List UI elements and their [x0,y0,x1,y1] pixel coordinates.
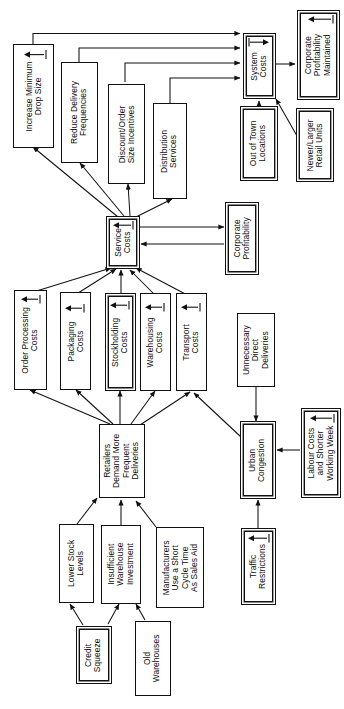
node-traffic-restrictions[interactable]: Traffic Restrictions [241,528,276,605]
node-label: Newer/Larger Retail Units [306,119,325,171]
tick-arrow-icon [22,49,48,61]
node-stockholding-costs[interactable]: Stockholding Costs [105,293,136,391]
node-packaging-costs[interactable]: Packaging Costs [60,292,91,390]
node-label: Distribution Services [161,129,180,172]
node-order-processing-costs[interactable]: Order Processing Costs [14,290,47,390]
node-increase-minimum-drop-size[interactable]: Increase Minimum Drop Size [13,44,54,148]
tick-arrow-icon [246,533,271,544]
tick-arrow-icon [63,303,86,314]
node-warehousing-costs[interactable]: Warehousing Costs [140,293,171,391]
node-label: Warehousing Costs [146,317,165,367]
node-service-costs[interactable]: Service Costs [106,216,140,269]
node-lower-stock-levels[interactable]: Lower Stock Levels [59,524,94,603]
node-urban-congestion[interactable]: Urban Congestion [240,421,276,499]
node-newer-larger-retail-units[interactable]: Newer/Larger Retail Units [296,108,334,182]
node-corporate-profitability[interactable]: Corporate Profitability [225,202,259,275]
node-label: Urban Congestion [249,438,268,481]
node-label: Labour Costs and Shorter Working Week [307,425,335,480]
tick-arrow-icon [179,302,202,313]
node-label: Stockholding Costs [111,317,130,366]
node-labour-costs-and-shorter-working-week[interactable]: Labour Costs and Shorter Working Week [301,408,341,498]
node-label: Credit Squeeze [85,638,104,672]
node-label: Transport Costs [182,324,201,360]
node-label: Service Costs [114,228,133,257]
node-label: Corporate Profitability Maintained [304,34,332,76]
node-insufficient-warehouse-investment[interactable]: Insufficient Warehouse Investment [101,525,141,604]
node-retailers-demand-more-frequent-deliveries[interactable]: Retailers Demand More Frequent Deliverie… [99,424,145,498]
node-label: Lower Stock Levels [67,540,86,587]
node-label: Out of Town Locations [250,121,269,167]
tick-arrow-icon [307,413,336,424]
node-label: Reduce Delivery Frequencies [70,81,89,144]
node-unnecessary-direct-deliveries[interactable]: Unnecessary Direct Deliveries [237,313,275,387]
diagram-canvas: Increase Minimum Drop Size Reduce Delive… [0,0,344,709]
node-system-costs[interactable]: System Costs [243,33,276,99]
node-out-of-town-locations[interactable]: Out of Town Locations [240,106,278,181]
node-manufacturers-use-a-short-cycle-time-as-sales-aid[interactable]: Manufacturers Use a Short Cycle Time As … [156,527,204,608]
node-label: Traffic Restrictions [249,544,268,589]
node-label: Discount/Order Size Incentives [117,105,136,163]
node-label: Increase Minimum Drop Size [24,61,43,131]
node-label: System Costs [250,52,269,81]
node-old-warehouses[interactable]: Old Warehouses [135,621,171,696]
node-distribution-services[interactable]: Distribution Services [153,103,187,199]
tick-arrow-icon [108,300,131,311]
tick-arrow-icon [19,294,42,305]
node-label: Unnecessary Direct Deliveries [242,325,270,375]
tick-arrow-icon [247,37,271,48]
node-corporate-profitability-maintained[interactable]: Corporate Profitability Maintained [297,10,340,100]
node-label: Packaging Costs [66,321,85,361]
node-label: Order Processing Costs [21,307,40,374]
tick-arrow-icon [305,14,335,25]
node-label: Retailers Demand More Frequent Deliverie… [103,434,141,488]
tick-arrow-icon [143,302,166,313]
node-label: Insufficient Warehouse Investment [107,543,135,586]
node-label: Old Warehouses [144,635,163,683]
node-reduce-delivery-frequencies[interactable]: Reduce Delivery Frequencies [61,62,98,163]
node-credit-squeeze[interactable]: Credit Squeeze [76,626,112,684]
node-label: Corporate Profitability [233,217,252,259]
node-transport-costs[interactable]: Transport Costs [176,293,207,391]
node-label: Manufacturers Use a Short Cycle Time As … [161,540,199,595]
node-discount-order-size-incentives[interactable]: Discount/Order Size Incentives [108,84,145,184]
